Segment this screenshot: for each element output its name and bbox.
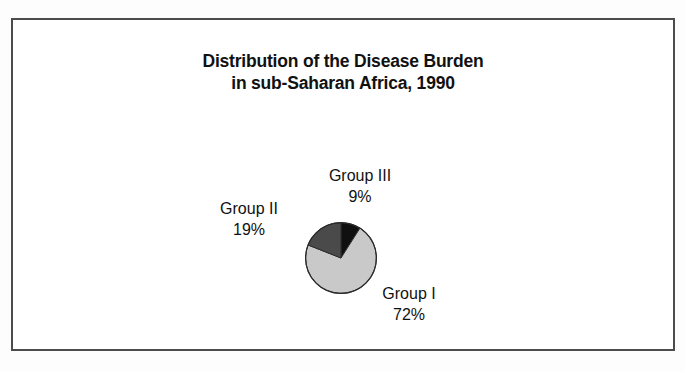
pie-label-group-iii-value: 9% bbox=[300, 186, 420, 207]
pie-label-group-ii: Group II 19% bbox=[189, 198, 309, 240]
figure-root: Distribution of the Disease Burden in su… bbox=[0, 0, 685, 372]
figure-border-frame: Distribution of the Disease Burden in su… bbox=[11, 18, 675, 351]
chart-title-line-1: Distribution of the Disease Burden bbox=[13, 50, 673, 72]
pie-label-group-ii-value: 19% bbox=[189, 219, 309, 240]
pie-label-group-i-value: 72% bbox=[349, 304, 469, 325]
chart-title: Distribution of the Disease Burden in su… bbox=[13, 50, 673, 94]
chart-title-line-2: in sub-Saharan Africa, 1990 bbox=[13, 72, 673, 94]
pie-label-group-iii-name: Group III bbox=[300, 165, 420, 186]
pie-chart bbox=[295, 212, 387, 304]
pie-label-group-ii-name: Group II bbox=[189, 198, 309, 219]
pie-chart-svg bbox=[295, 212, 387, 304]
pie-label-group-iii: Group III 9% bbox=[300, 165, 420, 207]
